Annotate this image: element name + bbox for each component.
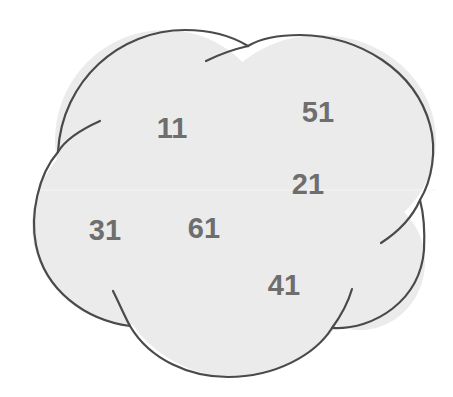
label-41: 41 (268, 269, 300, 301)
label-61: 61 (188, 212, 220, 244)
label-21: 21 (292, 168, 324, 200)
venn-cloud-diagram: 11 51 21 31 61 41 (0, 0, 453, 397)
label-11: 11 (157, 112, 188, 144)
label-31: 31 (89, 214, 121, 246)
filled-regions (32, 30, 436, 377)
label-51: 51 (302, 96, 334, 128)
